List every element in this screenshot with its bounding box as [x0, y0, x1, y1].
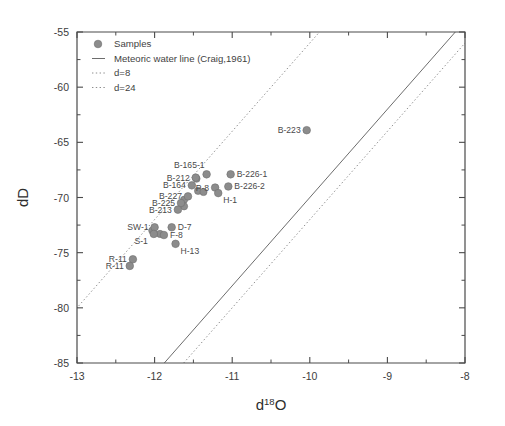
y-axis-title: dD	[14, 188, 31, 207]
legend-label: Samples	[114, 38, 152, 49]
x-tick-label: -12	[147, 370, 162, 382]
data-point-label: B-223	[278, 125, 301, 135]
x-tick-label: -8	[460, 370, 469, 382]
data-point	[160, 231, 168, 239]
legend-label: Meteoric water line (Craig,1961)	[114, 53, 251, 64]
data-point-label: B-226-2	[234, 181, 265, 191]
data-point-label: B-213	[149, 205, 172, 215]
data-point	[150, 230, 158, 238]
y-tick-label: -75	[54, 247, 69, 259]
data-point-label: F-8	[170, 230, 183, 240]
chart-root: -13-12-11-10-9-8-55-60-65-70-75-80-85dDd…	[0, 0, 505, 426]
y-tick-label: -65	[54, 136, 69, 148]
y-tick-label: -60	[54, 81, 69, 93]
data-point	[126, 262, 134, 270]
data-point	[203, 171, 211, 179]
x-axis-title: d18O	[256, 396, 287, 413]
data-point-label: H-1	[223, 195, 237, 205]
data-point	[227, 171, 235, 179]
legend-marker-samples	[94, 40, 102, 48]
legend-label: d=24	[114, 82, 136, 93]
data-point	[174, 206, 182, 214]
y-tick-label: -55	[54, 26, 69, 38]
x-tick-label: -9	[383, 370, 392, 382]
data-point-label: SW-1	[127, 222, 149, 232]
data-point	[225, 183, 233, 191]
data-point	[188, 182, 196, 190]
y-tick-label: -85	[54, 357, 69, 369]
data-point	[172, 240, 180, 248]
legend-label: d=8	[114, 67, 130, 78]
data-point-label: B-165-1	[174, 160, 205, 170]
x-tick-label: -11	[225, 370, 240, 382]
x-tick-label: -10	[302, 370, 317, 382]
data-point-label: P-8	[196, 183, 210, 193]
data-point	[303, 126, 311, 134]
y-tick-label: -80	[54, 302, 69, 314]
data-point-label: H-13	[181, 246, 200, 256]
data-point-label: B-164	[163, 180, 186, 190]
data-point	[184, 193, 192, 201]
data-point	[214, 189, 222, 197]
x-tick-label: -13	[69, 370, 84, 382]
data-point-label: B-226-1	[237, 169, 268, 179]
data-point	[192, 174, 200, 182]
data-point-label: R-11	[106, 261, 124, 271]
y-tick-label: -70	[54, 192, 69, 204]
data-point-label: S-1	[134, 236, 148, 246]
scatter-plot: -13-12-11-10-9-8-55-60-65-70-75-80-85dDd…	[0, 0, 505, 426]
reference-line-meteoric-water-line-craig-1961-	[164, 32, 455, 363]
